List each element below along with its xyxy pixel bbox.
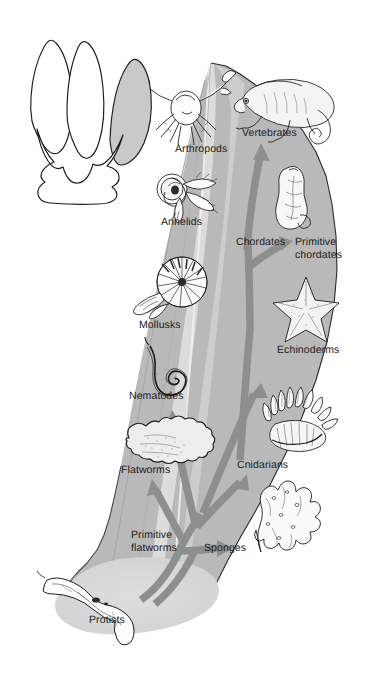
legend-lobe-middle [67, 42, 104, 159]
label-arthropods: Arthropods [175, 143, 227, 156]
label-sponges: Sponges [204, 542, 246, 555]
phylogenetic-tree-figure: Arthropods Vertebrates Annelids Chordate… [0, 0, 371, 677]
label-mollusks: Mollusks [139, 319, 181, 332]
label-primitive-flatworms: Primitive flatworms [131, 529, 177, 554]
label-flatworms: Flatworms [121, 464, 170, 477]
label-primitive-chordates: Primitive chordates [295, 236, 342, 261]
label-chordates: Chordates [236, 236, 285, 249]
label-cnidarians: Cnidarians [237, 459, 288, 472]
label-annelids: Annelids [161, 216, 202, 229]
label-protists: Protists [89, 614, 125, 627]
legend-lobe-left [31, 40, 73, 153]
legend-crown-outline [0, 0, 371, 677]
label-vertebrates: Vertebrates [242, 127, 297, 140]
label-nematodes: Nematodes [129, 390, 184, 403]
label-echinoderms: Echinoderms [277, 344, 339, 357]
